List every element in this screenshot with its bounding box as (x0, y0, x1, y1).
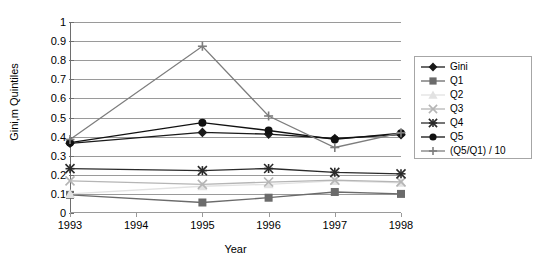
data-point-marker (66, 164, 75, 173)
legend-marker-icon (420, 144, 446, 158)
x-tick (70, 213, 71, 217)
y-axis-title: Gini,m Quintiles (8, 22, 20, 182)
data-point-marker (198, 198, 206, 206)
data-point-marker (331, 188, 339, 196)
data-point-marker (397, 190, 405, 198)
legend-item-q1[interactable]: Q1 (415, 74, 531, 88)
data-point-marker (397, 169, 406, 178)
x-tick-label: 1994 (112, 220, 160, 231)
legend-item-q4[interactable]: Q4 (415, 116, 531, 130)
x-tick (269, 213, 270, 217)
legend-item-label: Q5 (450, 132, 463, 142)
series-line (70, 180, 401, 184)
y-tick-label: 1 (60, 17, 66, 28)
legend-item-gini[interactable]: Gini (415, 60, 531, 74)
series-q3 (66, 176, 406, 189)
y-tick-label: 0.1 (51, 189, 66, 200)
x-tick-label: 1997 (311, 220, 359, 231)
legend-marker-icon (420, 102, 446, 116)
x-axis-tick-labels: 199319941995199619971998 (70, 220, 401, 234)
series-line (70, 192, 401, 203)
legend-marker-icon (420, 88, 446, 102)
legend-marker-icon (420, 74, 446, 88)
y-tick-label: 0.7 (51, 74, 66, 85)
legend-item-label: Q2 (450, 90, 463, 100)
data-point-marker (265, 126, 273, 134)
x-tick-label: 1995 (178, 220, 226, 231)
series-line (70, 46, 401, 147)
x-tick-label: 1993 (46, 220, 94, 231)
series-line (70, 168, 401, 173)
legend-marker-icon (420, 60, 446, 74)
data-point-marker (330, 168, 339, 177)
legend-item-q3[interactable]: Q3 (415, 102, 531, 116)
legend-marker-icon (420, 116, 446, 130)
data-point-marker (265, 194, 273, 202)
x-axis-title: Year (70, 243, 401, 255)
chart-figure: Gini,m Quintiles 00.10.20.30.40.50.60.70… (0, 0, 538, 264)
y-tick-label: 0.5 (51, 113, 66, 124)
chart-legend: GiniQ1Q2Q3Q4Q5(Q5/Q1) / 10 (414, 56, 532, 159)
x-tick-label: 1998 (377, 220, 425, 231)
legend-marker-icon (420, 130, 446, 144)
data-point-marker (198, 166, 207, 175)
series-q2 (65, 176, 406, 198)
x-tick (335, 213, 336, 217)
y-tick-label: 0.4 (51, 132, 66, 143)
data-point-marker (331, 135, 339, 143)
y-tick-label: 0 (60, 208, 66, 219)
y-tick-label: 0.6 (51, 93, 66, 104)
x-tick (136, 213, 137, 217)
legend-item-q5[interactable]: Q5 (415, 130, 531, 144)
x-tick (202, 213, 203, 217)
y-axis-tick-labels: 00.10.20.30.40.50.60.70.80.91 (28, 22, 66, 213)
legend-item-q2[interactable]: Q2 (415, 88, 531, 102)
x-tick-label: 1996 (245, 220, 293, 231)
data-point-marker (198, 119, 206, 127)
legend-item-label: Gini (450, 62, 468, 72)
data-point-marker (198, 128, 208, 138)
y-tick-label: 0.9 (51, 36, 66, 47)
y-tick-label: 0.3 (51, 151, 66, 162)
y-tick-label: 0.2 (51, 170, 66, 181)
legend-item-label: Q4 (450, 118, 463, 128)
legend-item-label: Q1 (450, 76, 463, 86)
x-tick (401, 213, 402, 217)
legend-item--q5-q1-10[interactable]: (Q5/Q1) / 10 (415, 144, 531, 158)
plot-area (70, 22, 401, 213)
y-tick-label: 0.8 (51, 55, 66, 66)
series-layer (70, 22, 401, 213)
data-point-marker (264, 164, 273, 173)
legend-item-label: (Q5/Q1) / 10 (450, 146, 506, 156)
series-q4 (66, 164, 406, 178)
data-point-marker (330, 143, 339, 152)
legend-item-label: Q3 (450, 104, 463, 114)
